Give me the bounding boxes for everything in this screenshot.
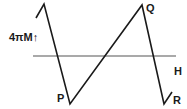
- hysteresis-curve-canvas: [0, 0, 187, 109]
- hysteresis-diagram: 4πM↑ P Q R H: [0, 0, 187, 109]
- point-label-q: Q: [146, 3, 155, 14]
- point-label-r: R: [173, 95, 181, 106]
- x-axis-label: H: [174, 66, 182, 77]
- magnetization-curve: [36, 4, 172, 104]
- point-label-p: P: [57, 93, 64, 104]
- y-axis-label: 4πM↑: [9, 32, 38, 43]
